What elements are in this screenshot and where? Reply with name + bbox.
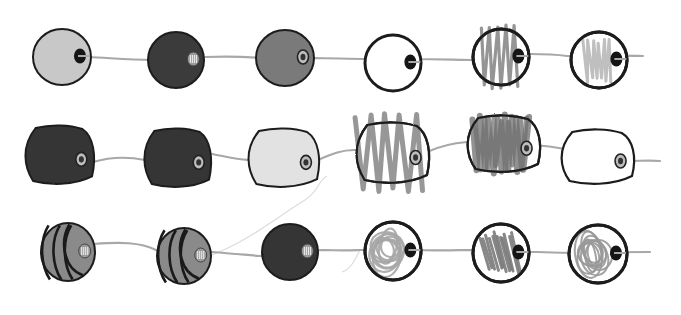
bead-strings-drawing (0, 0, 681, 315)
bead-3-3 (262, 224, 318, 280)
bead-hole-inner (618, 158, 623, 164)
bead-3-5 (473, 224, 529, 282)
bead-hole-inner (524, 145, 529, 151)
bead-hole-inner (300, 54, 305, 60)
bead-3-6 (569, 225, 627, 283)
bead-3-4 (365, 222, 421, 280)
bead-1-1 (33, 29, 91, 85)
bead-2-5 (468, 115, 541, 174)
stray-string (342, 250, 360, 272)
bead-1-3 (256, 30, 314, 86)
bead-1-6 (571, 32, 627, 88)
bead-1-5 (473, 25, 529, 89)
bead-1-4 (365, 35, 421, 91)
bead-2-4 (355, 114, 429, 192)
bead-3-1 (41, 223, 95, 281)
bead-2-2 (144, 128, 211, 186)
bead-1-2 (148, 32, 204, 88)
bead-2-6 (562, 129, 635, 183)
bead-illustration (0, 0, 681, 315)
bead-3-2 (157, 228, 211, 284)
bead-hole-inner (413, 154, 418, 160)
bead-hole-icon (187, 52, 199, 66)
bead-2-3 (249, 128, 320, 186)
bead-hole-icon (195, 248, 207, 262)
bead-hole-inner (79, 156, 84, 162)
bead-hole-inner (196, 159, 201, 165)
bead-hole-inner (303, 159, 308, 165)
bead-hole-icon (79, 244, 91, 258)
bead-2-1 (25, 125, 94, 183)
bead-hole-icon (301, 244, 313, 258)
